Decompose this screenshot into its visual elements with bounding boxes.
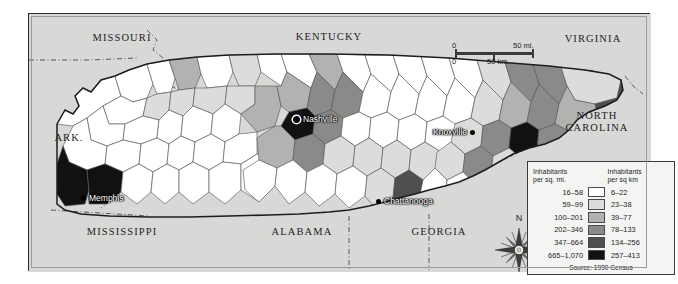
state-label-kentucky: KENTUCKY [269,31,389,43]
legend-row: 16–58 6–22 [533,186,669,199]
city-label-chattanooga: Chattanooga [384,196,433,206]
legend-heading-miles: Inhabitants per sq. mi. [533,168,603,185]
legend-value-per-sq-km: 23–38 [611,200,632,209]
city-label-knoxville: Knoxville [433,127,467,137]
legend-value-per-sq-mi: 16–58 [533,188,583,197]
state-label-virginia: VIRGINIA [541,33,645,45]
legend-swatch [588,199,605,210]
city-memphis: Memphis [81,193,123,203]
legend-swatch [588,212,605,223]
legend-value-per-sq-km: 39–77 [611,213,632,222]
state-label-georgia: GEORGIA [381,226,497,238]
state-label-north-carolina: NORTH CAROLINA [549,110,645,134]
scale-tick-end [532,49,534,58]
state-label-alabama: ALABAMA [239,226,365,238]
legend-heading-km: Inhabitants per sq km [603,168,668,185]
legend-swatch [588,187,605,198]
legend-row: 665–1,070 257–413 [533,249,669,262]
legend-value-per-sq-mi: 665–1,070 [533,251,583,260]
legend-class-rows: 16–58 6–22 59–99 23–38 100–201 39–77 202… [528,186,674,262]
legend-value-per-sq-km: 78–133 [611,225,636,234]
scale-label-km-zero: 0 [452,57,456,66]
state-label-arkansas: ARK. [31,132,107,144]
scale-bar: 0 50 mi. 0 50 km [447,40,545,68]
legend-value-per-sq-mi: 202–346 [533,225,583,234]
legend-value-per-sq-mi: 100–201 [533,213,583,222]
city-marker-icon [376,199,381,204]
scale-label-miles-zero: 0 [452,41,456,50]
legend-swatch [588,237,605,248]
scale-label-miles-max: 50 mi. [513,41,533,50]
legend-headings: Inhabitants per sq. mi. Inhabitants per … [528,162,674,186]
map-neatline-frame: MISSOURI KENTUCKY VIRGINIA NORTH CAROLIN… [28,13,650,271]
legend-value-per-sq-km: 257–413 [611,251,640,260]
legend-swatch [588,250,605,261]
legend-value-per-sq-km: 134–256 [611,238,640,247]
map-legend: Inhabitants per sq. mi. Inhabitants per … [527,161,675,275]
legend-row: 100–201 39–77 [533,211,669,224]
legend-value-per-sq-km: 6–22 [611,188,627,197]
legend-value-per-sq-mi: 347–664 [533,238,583,247]
capital-marker-icon [293,116,300,123]
city-label-nashville: Nashville [303,114,338,124]
city-marker-icon [470,130,475,135]
scale-label-km-max: 50 km [487,57,507,66]
legend-value-per-sq-mi: 59–99 [533,200,583,209]
state-label-missouri: MISSOURI [67,32,177,44]
population-density-map: MISSOURI KENTUCKY VIRGINIA NORTH CAROLIN… [0,0,678,284]
city-chattanooga: Chattanooga [376,196,433,206]
city-knoxville: Knoxville [433,127,475,137]
legend-row: 347–664 134–256 [533,236,669,249]
state-label-mississippi: MISSISSIPPI [57,226,187,238]
legend-swatch [588,225,605,236]
legend-row: 59–99 23–38 [533,198,669,211]
legend-source-note: Source: 1990 Census [528,264,674,271]
legend-row: 202–346 78–133 [533,224,669,237]
city-marker-icon [81,196,86,201]
city-nashville: Nashville [293,114,338,124]
city-label-memphis: Memphis [89,193,123,203]
